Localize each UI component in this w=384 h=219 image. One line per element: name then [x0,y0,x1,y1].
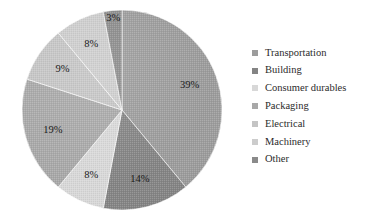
legend-item[interactable]: Consumer durables [252,80,382,98]
legend-item-label: Transportation [265,48,326,59]
pie-slice-label: 19% [43,124,63,135]
pie-slice-label: 8% [84,38,98,49]
legend-item-label: Packaging [265,101,309,112]
pie-slice-label: 39% [180,79,200,90]
pie-slice-label: 8% [84,169,98,180]
legend-item-label: Consumer durables [265,83,346,94]
legend-item[interactable]: Packaging [252,97,382,115]
legend-swatch-icon [252,139,258,145]
legend-swatch-icon [252,85,258,91]
legend-item-label: Electrical [265,119,305,130]
legend-item-label: Machinery [265,137,310,148]
pie-plot-area: 39%14%8%19%9%8%3% [0,0,244,219]
pie-slice-label: 9% [56,63,70,74]
legend-item[interactable]: Other [252,151,382,169]
pie-slice-label: 3% [106,12,120,23]
pie-svg: 39%14%8%19%9%8%3% [0,0,244,219]
legend-swatch-icon [252,50,258,56]
legend-item[interactable]: Building [252,62,382,80]
legend-item-label: Other [265,154,289,165]
legend-item-label: Building [265,65,302,76]
pie-slice-label: 14% [130,173,150,184]
legend-item[interactable]: Machinery [252,133,382,151]
legend-item[interactable]: Electrical [252,115,382,133]
legend-swatch-icon [252,121,258,127]
chart-legend: TransportationBuildingConsumer durablesP… [252,44,382,169]
legend-swatch-icon [252,157,258,163]
pie-chart-figure: 39%14%8%19%9%8%3% TransportationBuilding… [0,0,384,219]
legend-swatch-icon [252,68,258,74]
legend-item[interactable]: Transportation [252,44,382,62]
pie-shading-overlay [22,10,222,210]
legend-swatch-icon [252,103,258,109]
